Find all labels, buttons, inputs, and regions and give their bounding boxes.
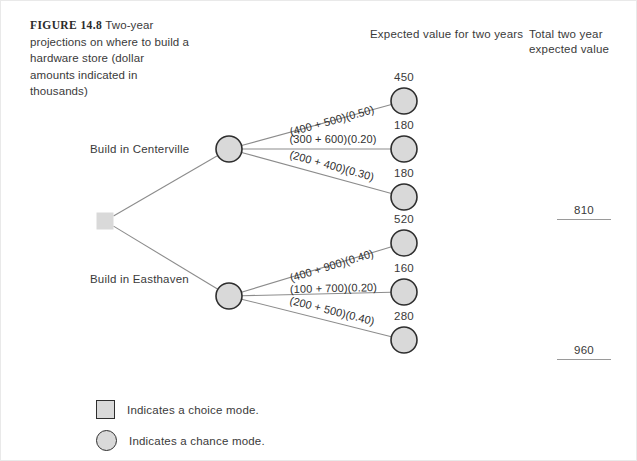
terminal-node-1-0 xyxy=(391,230,417,256)
outcome-value-1-1: 160 xyxy=(381,262,427,274)
figure-container: FIGURE 14.8 Two-year projections on wher… xyxy=(0,0,637,461)
branch-label-easthaven: Build in Easthaven xyxy=(90,272,189,287)
chance-node-easthaven xyxy=(216,283,242,309)
outcome-value-0-2: 180 xyxy=(381,167,427,179)
terminal-node-1-1 xyxy=(391,279,417,305)
legend-item-choice: Indicates a choice mode. xyxy=(96,400,259,419)
figure-number: FIGURE 14.8 xyxy=(30,19,102,31)
legend-item-chance: Indicates a chance mode. xyxy=(96,430,265,451)
outcome-value-0-0: 450 xyxy=(381,71,427,83)
terminal-node-0-2 xyxy=(391,184,417,210)
branch-label-centerville: Build in Centerville xyxy=(90,142,189,157)
choice-node-icon xyxy=(96,400,115,419)
terminal-node-1-2 xyxy=(391,327,417,353)
outcome-label-0-1: (300 + 600)(0.20) xyxy=(290,133,377,145)
chance-node-icon xyxy=(96,430,117,451)
chance-node-centerville xyxy=(216,136,242,162)
outcome-value-1-2: 280 xyxy=(381,310,427,322)
outcome-label-1-1: (100 + 700)(0.20) xyxy=(289,281,376,295)
column-header-expected-value: Expected value for two years xyxy=(370,27,523,42)
figure-caption: FIGURE 14.8 Two-year projections on wher… xyxy=(30,17,190,100)
total-expected-value-centerville: 810 xyxy=(557,204,611,220)
column-header-total-value: Total two year expected value xyxy=(529,27,636,57)
branch-line-centerville xyxy=(114,156,218,217)
legend-choice-label: Indicates a choice mode. xyxy=(127,404,259,416)
outcome-value-1-0: 520 xyxy=(381,213,427,225)
terminal-node-0-0 xyxy=(391,88,417,114)
terminal-node-0-1 xyxy=(391,136,417,162)
legend-chance-label: Indicates a chance mode. xyxy=(129,435,265,447)
total-expected-value-easthaven: 960 xyxy=(557,344,611,360)
root-choice-node xyxy=(97,213,114,230)
outcome-value-0-1: 180 xyxy=(381,119,427,131)
